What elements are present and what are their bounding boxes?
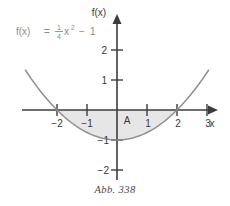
formula-equals: =: [44, 26, 50, 37]
figure-container: −2 −1 1 2 3 2 1 −1 −2 f(x) x A f(x) = 1 …: [0, 0, 230, 206]
function-formula-label: f(x) = 1 4 x 2 − 1: [16, 24, 96, 40]
x-tick-label-neg2: −2: [51, 118, 63, 129]
y-axis-arrow-icon: [113, 14, 122, 24]
formula-minus: −: [79, 26, 85, 37]
x-axis-arrow-icon: [208, 106, 218, 115]
formula-exponent: 2: [71, 24, 75, 31]
x-axis-label: x: [210, 118, 215, 129]
formula-variable: x: [64, 26, 69, 37]
y-tick-label-pos2: 2: [101, 45, 107, 56]
formula-denominator: 4: [57, 33, 61, 40]
y-tick-label-pos1: 1: [101, 75, 107, 86]
y-tick-label-neg1: −1: [98, 135, 110, 146]
formula-lhs: f(x): [16, 26, 30, 37]
y-tick-label-neg2: −2: [98, 165, 110, 176]
formula-numerator: 1: [57, 24, 61, 31]
function-plot: −2 −1 1 2 3 2 1 −1 −2 f(x) x A f(x) = 1 …: [0, 0, 230, 206]
y-axis-label: f(x): [92, 7, 106, 18]
x-tick-label-pos1: 1: [145, 118, 151, 129]
x-tick-label-neg1: −1: [81, 118, 93, 129]
area-label-a: A: [124, 115, 131, 126]
formula-constant: 1: [90, 26, 96, 37]
figure-caption: Abb. 338: [0, 184, 230, 195]
x-tick-label-pos2: 2: [175, 118, 181, 129]
